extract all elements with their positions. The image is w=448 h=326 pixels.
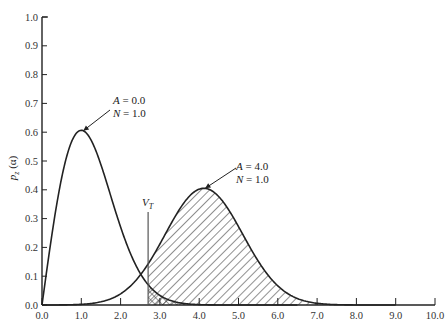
x-tick-label: 2.0 xyxy=(114,310,127,321)
y-tick-label: 1.0 xyxy=(25,12,38,23)
y-tick-label: 0.7 xyxy=(25,98,38,109)
x-tick-label: 5.0 xyxy=(232,310,245,321)
y-tick-label: 0.6 xyxy=(25,127,38,138)
y-axis-label: pz (α) xyxy=(6,155,21,181)
x-tick-label: 3.0 xyxy=(153,310,166,321)
annotation-noise: A = 0.0N = 1.0 xyxy=(83,94,146,131)
y-tick-label: 0.8 xyxy=(25,69,38,80)
threshold-label: VT xyxy=(142,196,154,211)
chart: 0.00.10.20.30.40.50.60.70.80.91.0 0.01.0… xyxy=(0,0,448,326)
y-tick-label: 0.3 xyxy=(25,213,38,224)
y-tick-label: 0.4 xyxy=(25,184,39,195)
annotation-signal: A = 4.0N = 1.0 xyxy=(205,160,269,188)
svg-text:N = 1.0: N = 1.0 xyxy=(112,107,146,119)
svg-text:N = 1.0: N = 1.0 xyxy=(235,173,269,185)
x-tick-label: 1.0 xyxy=(75,310,88,321)
x-tick-label: 8.0 xyxy=(350,310,363,321)
y-tick-label: 0.5 xyxy=(25,156,38,167)
x-tick-label: 10.0 xyxy=(426,310,444,321)
x-tick-label: 7.0 xyxy=(311,310,324,321)
x-tick-label: 4.0 xyxy=(193,310,206,321)
x-tick-label: 6.0 xyxy=(271,310,284,321)
y-tick-label: 0.1 xyxy=(25,271,38,282)
shaded-region-signal xyxy=(148,188,396,305)
y-axis: 0.00.10.20.30.40.50.60.70.80.91.0 xyxy=(25,12,48,311)
x-tick-label: 9.0 xyxy=(389,310,402,321)
x-tick-label: 0.0 xyxy=(35,310,48,321)
y-tick-label: 0.9 xyxy=(25,40,38,51)
svg-text:A = 4.0: A = 4.0 xyxy=(235,160,269,172)
svg-text:A = 0.0: A = 0.0 xyxy=(112,94,146,106)
y-tick-label: 0.0 xyxy=(25,300,38,311)
y-tick-label: 0.2 xyxy=(25,242,38,253)
